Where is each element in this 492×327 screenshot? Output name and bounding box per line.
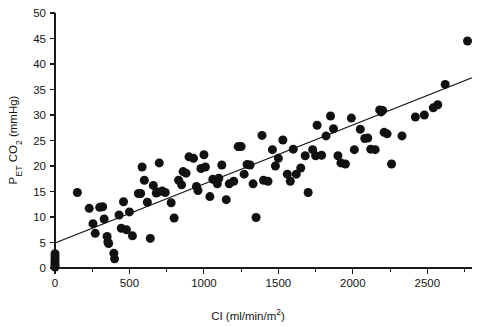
data-point xyxy=(205,192,214,201)
data-point xyxy=(201,163,210,172)
data-point xyxy=(249,179,258,188)
data-point xyxy=(286,177,295,186)
data-point xyxy=(189,154,198,163)
data-point xyxy=(252,213,261,222)
data-point xyxy=(138,163,147,172)
data-point xyxy=(199,150,208,159)
data-point xyxy=(304,188,313,197)
data-point xyxy=(278,135,287,144)
data-point xyxy=(363,133,372,142)
data-point xyxy=(411,113,420,122)
data-point xyxy=(155,158,164,167)
y-axis-tick-label: 40 xyxy=(33,58,46,70)
data-point xyxy=(356,125,365,134)
data-point xyxy=(313,121,322,130)
data-point xyxy=(433,100,442,109)
data-point xyxy=(104,239,113,248)
data-point xyxy=(237,142,246,151)
data-point xyxy=(296,164,305,173)
x-axis-tick-label: 1000 xyxy=(191,277,217,289)
data-point xyxy=(383,129,392,138)
chart-figure: 05101520253035404550 0500100015002000250… xyxy=(0,0,492,327)
y-axis-tick-label: 0 xyxy=(40,262,46,274)
data-point xyxy=(258,131,267,140)
y-axis-tick-label: 10 xyxy=(33,211,46,223)
y-axis-tick-label: 50 xyxy=(33,7,46,19)
y-axis-tick-label: 45 xyxy=(33,33,46,45)
data-point xyxy=(51,249,60,258)
data-point xyxy=(398,131,407,140)
data-point xyxy=(271,162,280,171)
data-point xyxy=(167,198,176,207)
data-point xyxy=(182,169,191,178)
data-point xyxy=(91,229,100,238)
x-axis-tick-label: 500 xyxy=(120,277,139,289)
data-point xyxy=(110,254,119,263)
y-axis-tick-label: 30 xyxy=(33,109,46,121)
data-point xyxy=(73,188,82,197)
data-point xyxy=(161,188,170,197)
y-axis-tick-label: 20 xyxy=(33,160,46,172)
x-axis-tick-label: 2000 xyxy=(340,277,366,289)
data-point xyxy=(387,159,396,168)
y-axis-tick-label: 15 xyxy=(33,186,46,198)
data-point xyxy=(263,177,272,186)
y-axis-tick-label: 35 xyxy=(33,84,46,96)
x-axis-title: CI (ml/min/m2) xyxy=(211,307,285,322)
data-point xyxy=(371,145,380,154)
y-axis-tick-label: 5 xyxy=(40,237,46,249)
data-point xyxy=(350,145,359,154)
data-point xyxy=(146,234,155,243)
data-point xyxy=(128,231,137,240)
y-axis-tick-label: 25 xyxy=(33,135,46,147)
data-point xyxy=(326,112,335,121)
data-point xyxy=(317,151,326,160)
data-point xyxy=(85,204,94,213)
data-point xyxy=(301,151,310,160)
data-point xyxy=(268,145,277,154)
data-point xyxy=(341,159,350,168)
data-point xyxy=(177,180,186,189)
data-point xyxy=(136,189,145,198)
data-point xyxy=(347,114,356,123)
scatter-plot: 05101520253035404550 0500100015002000250… xyxy=(0,0,492,327)
data-point xyxy=(229,177,238,186)
data-point xyxy=(463,37,472,46)
data-point xyxy=(170,214,179,223)
data-point xyxy=(420,111,429,120)
x-axis-tick-label: 2500 xyxy=(415,277,441,289)
data-point xyxy=(140,176,149,185)
x-axis-tick-label: 1500 xyxy=(266,277,292,289)
data-point xyxy=(119,197,128,206)
x-axis-tick-label: 0 xyxy=(52,277,58,289)
data-point xyxy=(222,195,231,204)
data-point xyxy=(98,202,107,211)
data-point xyxy=(217,160,226,169)
data-point xyxy=(240,170,249,179)
